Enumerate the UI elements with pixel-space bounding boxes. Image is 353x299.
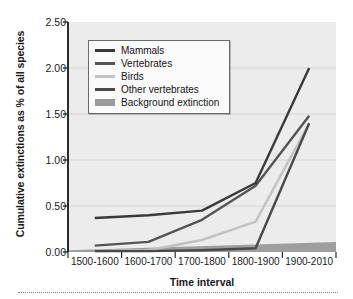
legend-swatch-vertebrates <box>95 62 115 65</box>
x-tick-1900-2010: 1900-2010 <box>285 256 333 267</box>
legend-item-vertebrates: Vertebrates <box>93 57 225 70</box>
x-tick-1800-1900: 1800-1900 <box>232 256 280 267</box>
legend-label-background-extinction: Background extinction <box>121 97 219 109</box>
x-tick-1600-1700: 1600-1700 <box>124 256 172 267</box>
chart-legend: Mammals Vertebrates Birds Other vertebra… <box>88 40 230 114</box>
x-tick-1500-1600: 1500-1600 <box>71 256 119 267</box>
legend-label-mammals: Mammals <box>121 45 164 57</box>
legend-item-other-vertebrates: Other vertebrates <box>93 83 225 96</box>
legend-swatch-mammals <box>95 49 115 52</box>
legend-swatch-background-extinction <box>95 99 115 106</box>
extinction-chart-figure: Cumulative extinctions as % of all speci… <box>0 0 353 299</box>
legend-item-mammals: Mammals <box>93 44 225 57</box>
legend-item-background-extinction: Background extinction <box>93 96 225 109</box>
legend-label-other-vertebrates: Other vertebrates <box>121 84 199 96</box>
legend-label-vertebrates: Vertebrates <box>121 58 172 70</box>
legend-swatch-other-vertebrates <box>95 88 115 91</box>
legend-item-birds: Birds <box>93 70 225 83</box>
legend-label-birds: Birds <box>121 71 144 83</box>
legend-swatch-birds <box>95 75 115 78</box>
x-axis-title: Time interval <box>68 276 336 288</box>
x-tick-1700-1800: 1700-1800 <box>178 256 226 267</box>
bottom-dotted-divider <box>18 292 338 293</box>
